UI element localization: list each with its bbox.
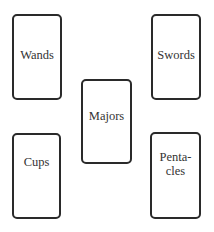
- card-label: Wands: [20, 48, 54, 98]
- card-wands: Wands: [12, 14, 62, 100]
- card-label: Swords: [157, 48, 195, 98]
- card-pentacles: Penta- cles: [150, 132, 201, 219]
- card-swords: Swords: [151, 14, 201, 100]
- card-cups: Cups: [12, 133, 61, 219]
- card-label: Majors: [89, 109, 124, 162]
- card-majors: Majors: [81, 79, 132, 164]
- card-label: Penta- cles: [160, 150, 192, 217]
- card-label: Cups: [24, 155, 50, 217]
